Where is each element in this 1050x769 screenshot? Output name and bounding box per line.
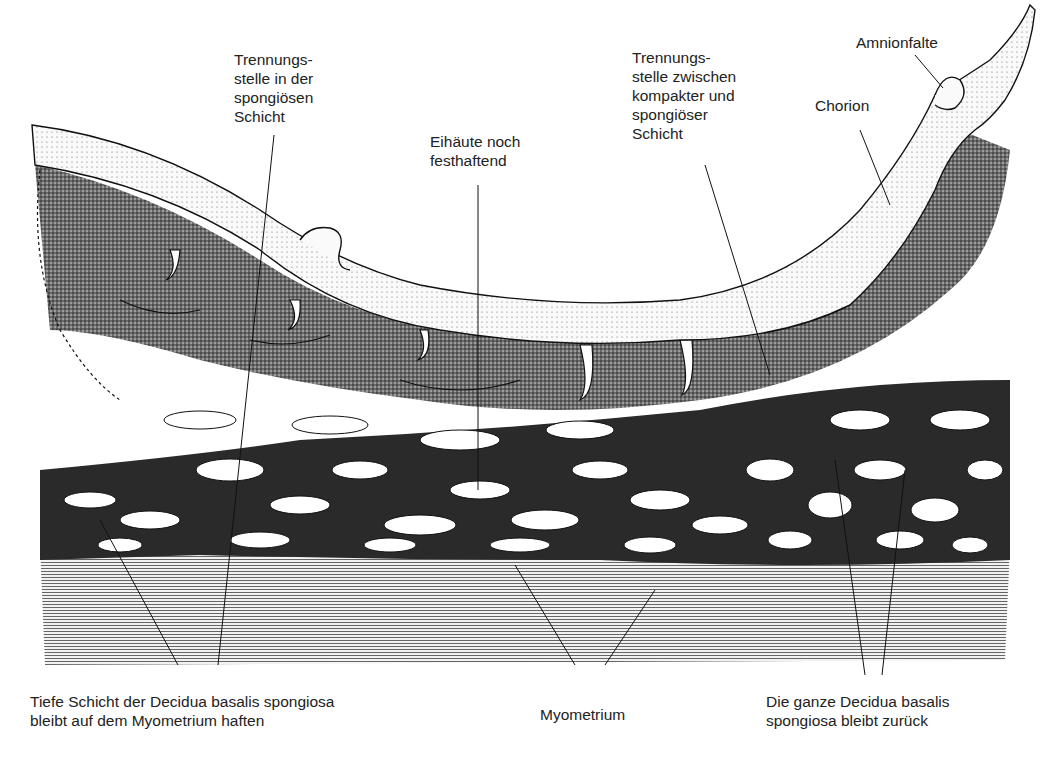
label-line: Myometrium (540, 705, 625, 724)
label-myometrium: Myometrium (540, 705, 625, 724)
label-line: Amnionfalte (856, 33, 938, 52)
label-line: Trennungs- (234, 50, 313, 69)
label-line: Schicht (632, 124, 736, 143)
label-line: Schicht (234, 107, 313, 126)
label-eihaeute-festhaftend: Eihäute noch festhaftend (430, 132, 521, 170)
label-line: kompakter und (632, 86, 736, 105)
label-tiefe-schicht-decidua: Tiefe Schicht der Decidua basalis spongi… (30, 692, 334, 730)
label-line: festhaftend (430, 151, 521, 170)
histology-illustration (0, 0, 1050, 769)
label-line: spongiosa bleibt zurück (766, 711, 950, 730)
label-trennungsstelle-kompakt-spongioes: Trennungs- stelle zwischen kompakter und… (632, 48, 736, 143)
label-line: Tiefe Schicht der Decidua basalis spongi… (30, 692, 334, 711)
label-line: stelle in der (234, 69, 313, 88)
label-line: Eihäute noch (430, 132, 521, 151)
label-line: spongiösen (234, 88, 313, 107)
label-line: spongiöser (632, 105, 736, 124)
label-chorion: Chorion (815, 96, 869, 115)
label-line: Chorion (815, 96, 869, 115)
label-line: bleibt auf dem Myometrium haften (30, 711, 334, 730)
label-trennungsstelle-spongioese-schicht: Trennungs- stelle in der spongiösen Schi… (234, 50, 313, 126)
label-amnionfalte: Amnionfalte (856, 33, 938, 52)
label-line: Trennungs- (632, 48, 736, 67)
label-ganze-decidua-basalis: Die ganze Decidua basalis spongiosa blei… (766, 692, 950, 730)
label-line: Die ganze Decidua basalis (766, 692, 950, 711)
label-line: stelle zwischen (632, 67, 736, 86)
